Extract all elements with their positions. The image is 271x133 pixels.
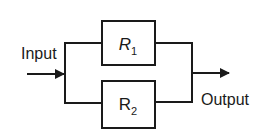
- input-label: Input: [21, 45, 57, 62]
- output-label: Output: [201, 91, 250, 108]
- parallel-diagram: R1 R2 Input Output: [0, 0, 271, 133]
